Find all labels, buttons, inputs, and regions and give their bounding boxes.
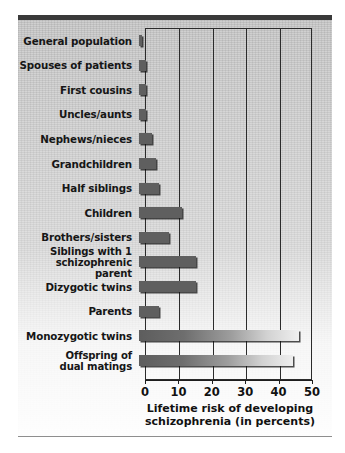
bar-track xyxy=(139,202,312,224)
bar xyxy=(139,158,156,169)
bar-label: Dizygotic twins xyxy=(18,282,139,293)
bar-row: General population xyxy=(18,30,312,52)
bar-label-line1: Spouses of patients xyxy=(18,60,132,71)
bar-label-line1: Siblings with 1 xyxy=(18,246,132,257)
bar-row: Siblings with 1schizophrenic parent xyxy=(18,251,312,273)
bar-row: Monozygotic twins xyxy=(18,325,312,347)
bar-label: Parents xyxy=(18,306,139,317)
bar xyxy=(139,60,146,71)
bar-row: Dizygotic twins xyxy=(18,276,312,298)
bar-label: Half siblings xyxy=(18,183,139,194)
bar xyxy=(139,330,299,341)
x-tick-label: 50 xyxy=(297,385,327,399)
bar xyxy=(139,84,146,95)
bar-row: Offspring ofdual matings xyxy=(18,350,312,372)
bar-track xyxy=(139,128,312,150)
bar-track xyxy=(139,30,312,52)
bar-label-line1: Half siblings xyxy=(18,183,132,194)
x-tick xyxy=(245,380,246,384)
bar-label-line1: Monozygotic twins xyxy=(18,331,132,342)
bar-row: Grandchildren xyxy=(18,153,312,175)
bar-label-line1: Uncles/aunts xyxy=(18,109,132,120)
x-tick xyxy=(212,380,213,384)
bar xyxy=(139,133,152,144)
bar-label: Brothers/sisters xyxy=(18,232,139,243)
bar-label: First cousins xyxy=(18,85,139,96)
x-axis-caption-line1: Lifetime risk of developing xyxy=(128,402,332,415)
bar-label: Uncles/aunts xyxy=(18,109,139,120)
bar-track xyxy=(139,104,312,126)
x-tick-label: 30 xyxy=(230,385,260,399)
x-tick-label: 40 xyxy=(264,385,294,399)
x-axis-caption-line2: schizophrenia (in percents) xyxy=(128,415,332,428)
x-tick xyxy=(279,380,280,384)
bar-label: Nephews/nieces xyxy=(18,134,139,145)
bar xyxy=(139,256,196,267)
bar-label-line1: Dizygotic twins xyxy=(18,282,132,293)
bar-row: Parents xyxy=(18,301,312,323)
bar xyxy=(139,306,159,317)
bar-row: Uncles/aunts xyxy=(18,104,312,126)
bar-row: Spouses of patients xyxy=(18,55,312,77)
bar-track xyxy=(139,301,312,323)
bar-label-line1: Parents xyxy=(18,306,132,317)
bar xyxy=(139,281,196,292)
bar-track xyxy=(139,153,312,175)
x-tick xyxy=(145,380,146,384)
bar-track xyxy=(139,251,312,273)
x-tick-label: 0 xyxy=(130,385,160,399)
bar-row: Half siblings xyxy=(18,178,312,200)
bar-row: Children xyxy=(18,202,312,224)
bar-label: Offspring ofdual matings xyxy=(18,350,139,372)
x-tick xyxy=(312,380,313,384)
bar xyxy=(139,207,182,218)
bar-label: Monozygotic twins xyxy=(18,331,139,342)
bar-label: Siblings with 1schizophrenic parent xyxy=(18,246,139,279)
bar-label-line1: Children xyxy=(18,208,132,219)
bar-track xyxy=(139,227,312,249)
bar-track xyxy=(139,325,312,347)
bar-track xyxy=(139,178,312,200)
bar-track xyxy=(139,79,312,101)
bar-row: Nephews/nieces xyxy=(18,128,312,150)
bar-label-line1: Grandchildren xyxy=(18,159,132,170)
x-tick xyxy=(178,380,179,384)
x-tick-label: 20 xyxy=(197,385,227,399)
schizophrenia-risk-figure: General populationSpouses of patientsFir… xyxy=(0,0,345,453)
bar-label: Grandchildren xyxy=(18,159,139,170)
bar-row: First cousins xyxy=(18,79,312,101)
bar xyxy=(139,232,169,243)
bar-track xyxy=(139,350,312,372)
bar xyxy=(139,109,146,120)
bar-label-line1: Brothers/sisters xyxy=(18,232,132,243)
x-axis-line xyxy=(145,380,312,381)
bar-label-line1: First cousins xyxy=(18,85,132,96)
bar-track xyxy=(139,55,312,77)
bar-label-line2: dual matings xyxy=(18,361,132,372)
bar-label-line1: General population xyxy=(18,36,132,47)
bar-label: Spouses of patients xyxy=(18,60,139,71)
bar-label: Children xyxy=(18,208,139,219)
x-axis-caption: Lifetime risk of developing schizophreni… xyxy=(128,402,332,428)
bar-label-line1: Offspring of xyxy=(18,350,132,361)
bar xyxy=(139,355,293,366)
x-tick-label: 10 xyxy=(163,385,193,399)
bar-label: General population xyxy=(18,36,139,47)
bar xyxy=(139,35,142,46)
bar-track xyxy=(139,276,312,298)
bar-label-line1: Nephews/nieces xyxy=(18,134,132,145)
bar xyxy=(139,183,159,194)
